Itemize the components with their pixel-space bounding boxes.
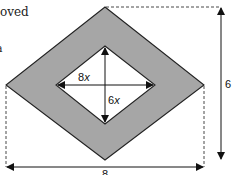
inner-width-label: 8x bbox=[78, 71, 90, 83]
outer-height-label: 6 bbox=[225, 78, 231, 90]
rhombus-diagram: 8x 6x 8 6 bbox=[0, 0, 233, 175]
outer-width-label: 8 bbox=[102, 168, 108, 175]
inner-height-label: 6x bbox=[108, 94, 120, 106]
